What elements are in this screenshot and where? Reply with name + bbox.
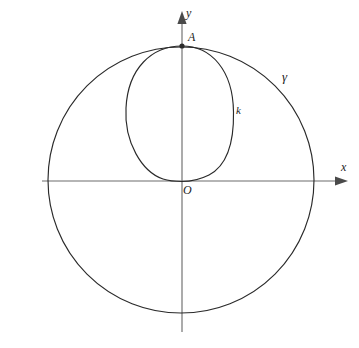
curve-gamma-label: γ bbox=[282, 70, 287, 83]
curve-k bbox=[126, 46, 234, 182]
circle-gamma bbox=[48, 47, 314, 313]
y-axis-label: y bbox=[186, 7, 191, 19]
curve-k-label: k bbox=[236, 105, 241, 116]
point-a-marker bbox=[179, 43, 184, 48]
figure-canvas: y x A O k γ bbox=[0, 0, 359, 348]
x-axis-label: x bbox=[341, 161, 346, 173]
point-o-label: O bbox=[183, 184, 192, 196]
point-a-label: A bbox=[188, 31, 195, 43]
x-axis-arrowhead bbox=[335, 176, 348, 185]
geometry-diagram bbox=[0, 0, 359, 348]
